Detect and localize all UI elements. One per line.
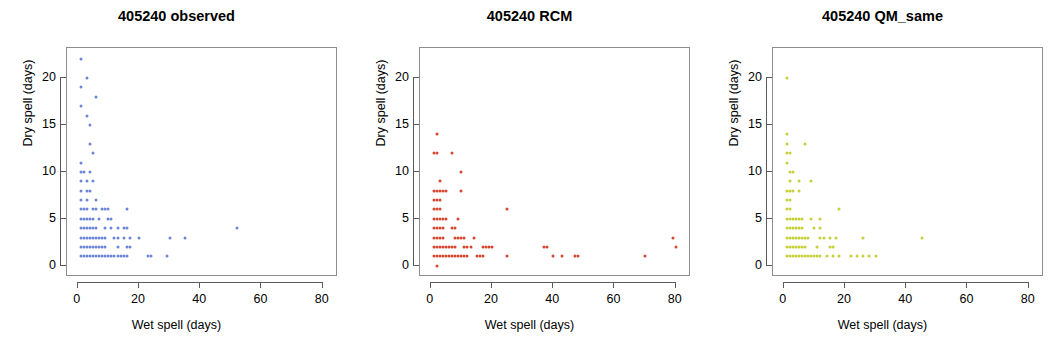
data-point — [92, 217, 95, 220]
y-tick-label: 15 — [22, 117, 56, 131]
data-point — [137, 236, 140, 239]
x-tick-label: 60 — [240, 292, 280, 306]
data-point — [79, 58, 82, 61]
x-tick-label: 80 — [302, 292, 342, 306]
y-axis-label: Dry spell (days) — [374, 23, 388, 183]
data-point — [79, 161, 82, 164]
data-point — [454, 245, 457, 248]
data-point — [128, 245, 131, 248]
plot-panel-2: 405240 RCMDry spell (days)Wet spell (day… — [353, 0, 706, 344]
data-point — [438, 199, 441, 202]
x-axis-line — [783, 282, 1028, 283]
data-point — [79, 189, 82, 192]
data-point — [92, 180, 95, 183]
data-point — [88, 123, 91, 126]
data-point — [85, 77, 88, 80]
data-point — [831, 255, 834, 258]
data-point — [819, 227, 822, 230]
data-point — [819, 217, 822, 220]
y-tick-label: 20 — [375, 70, 409, 84]
data-point — [804, 142, 807, 145]
data-point — [801, 217, 804, 220]
data-point — [79, 199, 82, 202]
x-axis-label: Wet spell (days) — [706, 318, 1059, 332]
data-point — [85, 180, 88, 183]
data-point — [490, 245, 493, 248]
y-tick-mark — [766, 265, 772, 266]
x-tick-label: 60 — [946, 292, 986, 306]
data-point — [460, 170, 463, 173]
data-point — [183, 236, 186, 239]
data-point — [469, 245, 472, 248]
data-point — [435, 133, 438, 136]
x-tick-label: 0 — [57, 292, 97, 306]
data-point — [798, 180, 801, 183]
data-point — [104, 245, 107, 248]
data-point — [506, 208, 509, 211]
data-point — [95, 95, 98, 98]
y-tick-label: 10 — [728, 164, 762, 178]
data-point — [107, 208, 110, 211]
data-point — [671, 236, 674, 239]
data-point — [85, 208, 88, 211]
data-point — [110, 227, 113, 230]
data-point — [116, 236, 119, 239]
data-point — [128, 236, 131, 239]
data-point — [788, 180, 791, 183]
x-tick-mark — [675, 282, 676, 288]
data-point — [79, 105, 82, 108]
data-point — [850, 255, 853, 258]
y-axis-line — [60, 77, 61, 265]
y-tick-label: 15 — [375, 117, 409, 131]
data-point — [457, 217, 460, 220]
y-tick-label: 0 — [22, 258, 56, 272]
data-point — [104, 227, 107, 230]
data-point — [785, 133, 788, 136]
data-point — [788, 199, 791, 202]
y-tick-label: 5 — [375, 211, 409, 225]
data-point — [785, 142, 788, 145]
x-tick-label: 80 — [655, 292, 695, 306]
plot-panel-3: 405240 QM_sameDry spell (days)Wet spell … — [706, 0, 1059, 344]
data-point — [95, 227, 98, 230]
data-point — [481, 255, 484, 258]
y-tick-label: 5 — [22, 211, 56, 225]
data-point — [837, 255, 840, 258]
y-tick-label: 10 — [22, 164, 56, 178]
scatter-plot-figure: 405240 observedDry spell (days)Wet spell… — [0, 0, 1060, 344]
data-point — [472, 236, 475, 239]
data-point — [79, 86, 82, 89]
data-point — [791, 189, 794, 192]
data-point — [116, 227, 119, 230]
data-point — [168, 236, 171, 239]
data-point — [561, 255, 564, 258]
data-point — [122, 236, 125, 239]
y-tick-label: 0 — [375, 258, 409, 272]
data-point — [801, 227, 804, 230]
data-point — [868, 255, 871, 258]
data-point — [88, 189, 91, 192]
data-point — [804, 245, 807, 248]
x-axis-label: Wet spell (days) — [353, 318, 706, 332]
data-point — [785, 77, 788, 80]
data-point — [441, 236, 444, 239]
x-axis-label: Wet spell (days) — [0, 318, 353, 332]
y-tick-label: 20 — [22, 70, 56, 84]
data-point — [438, 180, 441, 183]
panel-title: 405240 RCM — [353, 8, 706, 24]
data-point — [88, 170, 91, 173]
x-tick-label: 0 — [410, 292, 450, 306]
data-point — [810, 217, 813, 220]
data-point — [862, 255, 865, 258]
data-point — [95, 208, 98, 211]
x-axis-line — [430, 282, 675, 283]
data-point — [834, 236, 837, 239]
data-point — [88, 142, 91, 145]
x-tick-mark — [1028, 282, 1029, 288]
data-point — [822, 236, 825, 239]
data-point — [506, 255, 509, 258]
y-tick-mark — [413, 265, 419, 266]
panel-title: 405240 QM_same — [706, 8, 1059, 24]
data-point — [828, 236, 831, 239]
data-point — [92, 152, 95, 155]
